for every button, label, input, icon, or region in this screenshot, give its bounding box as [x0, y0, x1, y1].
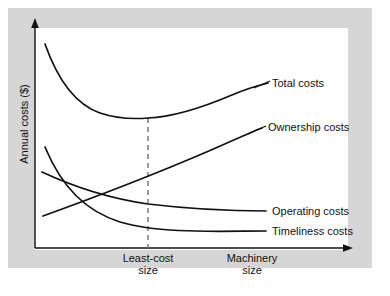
- series-line-timeliness-costs: [45, 147, 266, 231]
- series-line-total-costs: [45, 44, 268, 118]
- chart-svg: [0, 0, 390, 296]
- figure-container: Annual costs ($) Total costs Ownership c…: [0, 0, 390, 296]
- series-line-ownership-costs: [43, 128, 262, 216]
- series-label-operating-costs: Operating costs: [272, 205, 349, 217]
- least-cost-line-1: Least-cost: [108, 252, 188, 264]
- series-label-ownership-costs: Ownership costs: [268, 121, 349, 133]
- y-axis-title: Annual costs ($): [18, 64, 30, 184]
- series-label-total-costs: Total costs: [272, 77, 324, 89]
- y-axis: [31, 18, 39, 248]
- leader-total-costs: [254, 81, 270, 88]
- machinery-line-2: size: [212, 264, 292, 276]
- series-line-operating-costs: [42, 172, 266, 211]
- x-tick-least-cost-size: Least-cost size: [108, 252, 188, 276]
- x-axis: [35, 244, 353, 252]
- least-cost-line-2: size: [108, 264, 188, 276]
- series-label-timeliness-costs: Timeliness costs: [272, 225, 353, 237]
- x-tick-machinery-size: Machinery size: [212, 252, 292, 276]
- leader-ownership-costs: [248, 126, 266, 134]
- machinery-line-1: Machinery: [212, 252, 292, 264]
